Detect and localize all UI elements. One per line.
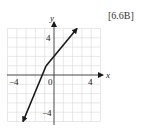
- origin-label: 0: [48, 77, 53, 87]
- reference-label: [6.6B]: [108, 10, 134, 21]
- y-tick-4: 4: [46, 33, 51, 43]
- y-tick-neg4: −4: [42, 108, 52, 118]
- x-tick-neg4: −4: [9, 77, 19, 87]
- x-axis-label: x: [105, 70, 110, 80]
- y-axis-label: y: [49, 13, 54, 23]
- x-tick-4: 4: [88, 77, 93, 87]
